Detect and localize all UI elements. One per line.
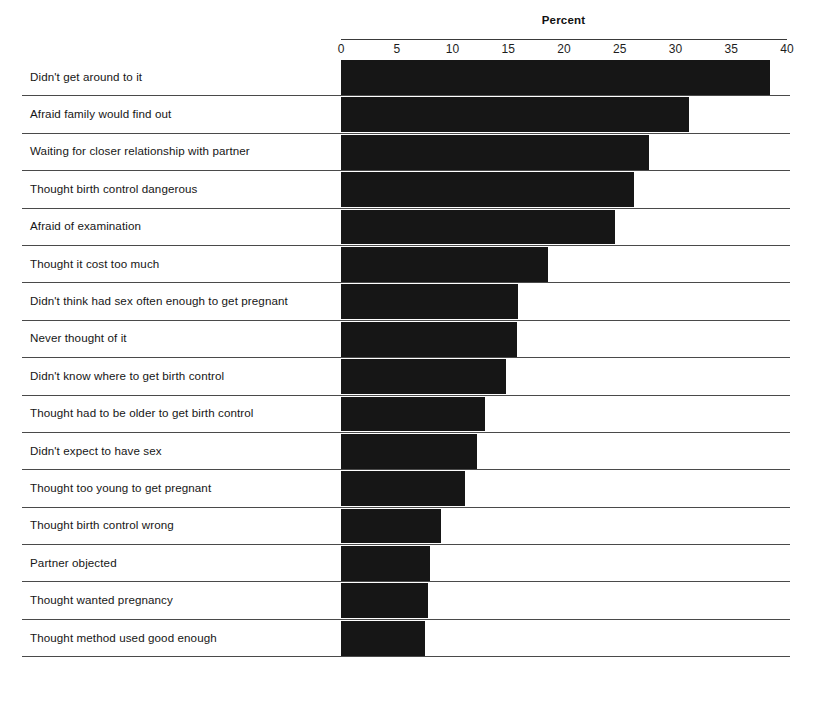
chart-rows: Didn't get around to itAfraid family wou… xyxy=(0,59,816,657)
row-label: Thought too young to get pregnant xyxy=(30,481,211,494)
chart-row: Partner objected xyxy=(0,545,816,582)
row-bar xyxy=(341,60,770,95)
x-axis-line xyxy=(341,39,787,40)
chart-row: Didn't expect to have sex xyxy=(0,433,816,470)
x-tick-40: 40 xyxy=(780,42,793,56)
chart-row: Thought had to be older to get birth con… xyxy=(0,396,816,433)
chart-row: Never thought of it xyxy=(0,321,816,358)
x-axis-tick-labels: 0510152025303540 xyxy=(341,42,787,58)
row-bar xyxy=(341,471,465,506)
row-label: Thought birth control wrong xyxy=(30,519,174,532)
row-bar xyxy=(341,583,428,618)
row-label: Afraid family would find out xyxy=(30,108,171,121)
chart-row: Afraid of examination xyxy=(0,209,816,246)
row-bar xyxy=(341,247,548,282)
x-tick-5: 5 xyxy=(393,42,400,56)
row-label: Never thought of it xyxy=(30,332,127,345)
row-bar xyxy=(341,135,649,170)
row-bar xyxy=(341,434,477,469)
chart-axis-title: Percent xyxy=(341,14,786,26)
x-tick-0: 0 xyxy=(338,42,345,56)
row-bar xyxy=(341,284,518,319)
row-label: Thought method used good enough xyxy=(30,631,217,644)
chart-row: Thought birth control dangerous xyxy=(0,171,816,208)
row-bar xyxy=(341,397,485,432)
x-tick-15: 15 xyxy=(502,42,515,56)
row-label: Waiting for closer relationship with par… xyxy=(30,145,250,158)
row-label: Didn't expect to have sex xyxy=(30,444,162,457)
x-tick-25: 25 xyxy=(613,42,626,56)
chart-row: Didn't get around to it xyxy=(0,59,816,96)
row-bar xyxy=(341,210,615,245)
chart-row: Didn't think had sex often enough to get… xyxy=(0,283,816,320)
row-bar xyxy=(341,172,634,207)
row-separator xyxy=(22,656,790,657)
row-bar xyxy=(341,546,430,581)
x-tick-10: 10 xyxy=(446,42,459,56)
row-bar xyxy=(341,509,441,544)
row-label: Thought it cost too much xyxy=(30,257,159,270)
chart-row: Afraid family would find out xyxy=(0,96,816,133)
chart-row: Thought it cost too much xyxy=(0,246,816,283)
row-bar xyxy=(341,621,425,656)
x-tick-20: 20 xyxy=(557,42,570,56)
chart-row: Thought wanted pregnancy xyxy=(0,582,816,619)
bar-chart: Percent 0510152025303540 Didn't get arou… xyxy=(0,0,816,708)
x-tick-30: 30 xyxy=(669,42,682,56)
row-label: Didn't know where to get birth control xyxy=(30,369,224,382)
x-tick-35: 35 xyxy=(725,42,738,56)
row-label: Partner objected xyxy=(30,556,117,569)
row-label: Didn't get around to it xyxy=(30,70,142,83)
row-label: Thought had to be older to get birth con… xyxy=(30,407,254,420)
chart-row: Waiting for closer relationship with par… xyxy=(0,134,816,171)
row-label: Afraid of examination xyxy=(30,220,141,233)
row-label: Thought wanted pregnancy xyxy=(30,594,173,607)
row-bar xyxy=(341,97,689,132)
chart-row: Thought method used good enough xyxy=(0,620,816,657)
row-label: Didn't think had sex often enough to get… xyxy=(30,294,288,307)
chart-row: Thought birth control wrong xyxy=(0,508,816,545)
chart-row: Thought too young to get pregnant xyxy=(0,470,816,507)
row-label: Thought birth control dangerous xyxy=(30,182,197,195)
row-bar xyxy=(341,322,517,357)
chart-row: Didn't know where to get birth control xyxy=(0,358,816,395)
row-bar xyxy=(341,359,506,394)
